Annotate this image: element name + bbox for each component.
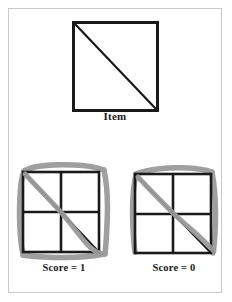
example-score-0-drawing <box>122 158 226 262</box>
example-score-1-label: Score = 1 <box>12 262 116 273</box>
item-panel: Item <box>60 18 170 128</box>
example-score-1-panel: Score = 1 <box>12 158 116 294</box>
example-score-0-panel: Score = 0 <box>122 158 226 294</box>
item-label: Item <box>60 110 170 122</box>
example-score-0-label: Score = 0 <box>122 262 226 273</box>
item-square-with-diagonal <box>60 18 170 113</box>
example-score-1-drawing <box>12 158 116 262</box>
figure-root: Item Score = 1 <box>0 0 232 302</box>
